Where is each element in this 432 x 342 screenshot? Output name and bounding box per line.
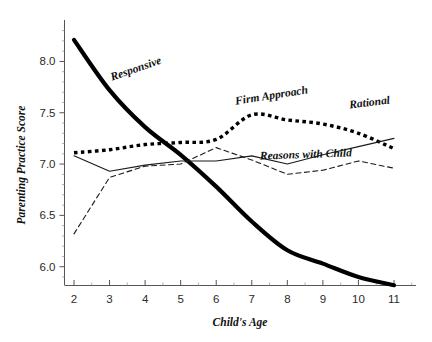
- y-tick-label: 6.5: [40, 209, 56, 221]
- x-tick-label: 11: [388, 293, 400, 305]
- x-tick-label: 9: [320, 293, 326, 305]
- series-label-responsive: Responsive: [108, 54, 163, 84]
- y-tick-label: 6.0: [40, 261, 56, 273]
- y-axis-tick-labels: 6.06.57.07.58.0: [40, 55, 56, 272]
- series-label-rational: Rational: [347, 93, 391, 110]
- x-tick-label: 6: [213, 293, 219, 305]
- y-axis-title: Parenting Practice Score: [15, 106, 28, 225]
- series-line-reasons-with-child: [74, 148, 394, 234]
- x-axis-tick-labels: 234567891011: [71, 293, 400, 305]
- y-tick-label: 7.0: [40, 158, 56, 170]
- parenting-practice-line-chart: 6.06.57.07.58.0 234567891011 ResponsiveF…: [0, 0, 432, 342]
- chart-canvas: 6.06.57.07.58.0 234567891011 ResponsiveF…: [0, 0, 432, 342]
- x-tick-label: 2: [71, 293, 77, 305]
- x-tick-label: 3: [106, 293, 112, 305]
- series-label-reasons-with-child: Reasons with Child: [259, 146, 353, 161]
- x-tick-label: 10: [352, 293, 365, 305]
- x-axis-title: Child's Age: [213, 316, 268, 329]
- y-tick-label: 7.5: [40, 107, 56, 119]
- series-label-firm-approach: Firm Approach: [233, 83, 309, 107]
- x-tick-label: 8: [284, 293, 290, 305]
- y-tick-label: 8.0: [40, 55, 56, 67]
- x-tick-label: 7: [249, 293, 255, 305]
- series-annotation-labels: ResponsiveFirm ApproachRationalReasons w…: [108, 54, 392, 162]
- x-tick-label: 5: [177, 293, 183, 305]
- x-tick-label: 4: [142, 293, 149, 305]
